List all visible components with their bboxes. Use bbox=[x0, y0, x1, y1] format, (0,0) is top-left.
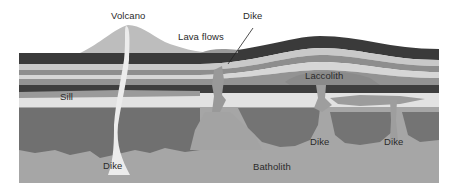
label-laccolith: Laccolith bbox=[305, 70, 343, 81]
geology-cross-section: Volcano Lava flows Dike Laccolith Sill D… bbox=[0, 0, 454, 183]
label-dike-right: Dike bbox=[384, 136, 403, 147]
label-batholith: Batholith bbox=[253, 161, 291, 172]
label-dike-mid: Dike bbox=[310, 136, 329, 147]
label-volcano: Volcano bbox=[111, 10, 146, 21]
label-dike-top: Dike bbox=[243, 10, 262, 21]
label-dike-left: Dike bbox=[103, 160, 122, 171]
lava-flow bbox=[200, 49, 238, 53]
label-sill: Sill bbox=[60, 91, 73, 102]
label-lava-flows: Lava flows bbox=[178, 31, 224, 42]
